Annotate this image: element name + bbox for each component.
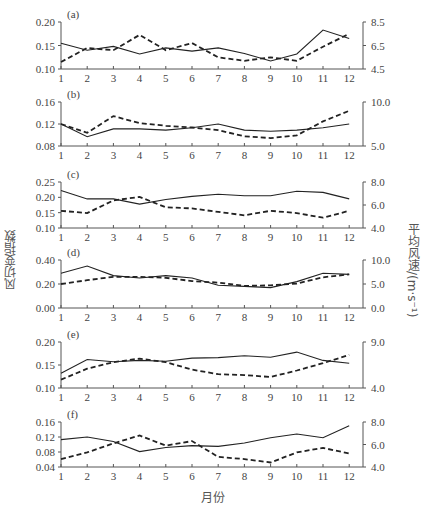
x-tick-label: 7 — [215, 391, 221, 403]
x-tick-label: 7 — [215, 72, 221, 84]
x-tick-label: 12 — [344, 391, 355, 403]
chart-figure: (a)0.100.150.204.56.58.5123456789101112(… — [0, 0, 425, 509]
right-tick-label: 4.0 — [371, 382, 385, 394]
x-tick-label: 12 — [344, 311, 355, 323]
left-tick-label: 0.12 — [36, 118, 55, 130]
y-axis-label-right: 平均风速/(m·s⁻¹) — [405, 190, 421, 350]
right-tick-label: 4.0 — [371, 461, 385, 473]
x-tick-label: 3 — [111, 391, 117, 403]
x-tick-label: 6 — [189, 470, 195, 482]
x-tick-label: 11 — [318, 72, 329, 84]
left-tick-label: 0.25 — [36, 176, 56, 188]
panel-c: (c)0.100.150.200.254.06.08.0123456789101… — [36, 168, 386, 243]
right-tick-label: 8.5 — [371, 16, 385, 28]
x-tick-label: 6 — [189, 391, 195, 403]
right-tick-label: 9.0 — [371, 336, 385, 348]
left-tick-label: 0.16 — [36, 96, 56, 108]
x-tick-label: 12 — [344, 231, 355, 243]
panel-label: (b) — [67, 88, 80, 101]
x-tick-label: 3 — [111, 149, 117, 161]
x-tick-label: 11 — [318, 231, 329, 243]
right-tick-label: 5.0 — [371, 278, 385, 290]
x-tick-label: 6 — [189, 72, 195, 84]
right-tick-label: 10.0 — [371, 96, 391, 108]
x-tick-label: 1 — [58, 72, 64, 84]
x-tick-label: 12 — [344, 470, 355, 482]
panel-label: (d) — [67, 246, 80, 259]
x-tick-label: 10 — [291, 231, 303, 243]
x-tick-label: 1 — [58, 391, 64, 403]
x-tick-label: 4 — [137, 231, 143, 243]
x-tick-label: 10 — [291, 470, 303, 482]
x-tick-label: 8 — [242, 72, 248, 84]
left-tick-label: 0.15 — [36, 40, 56, 52]
x-tick-label: 6 — [189, 311, 195, 323]
right-tick-label: 0.0 — [371, 302, 385, 314]
y-axis-label-left: 风切变指数 — [2, 200, 18, 320]
wind-shear-line — [61, 191, 349, 205]
x-tick-label: 7 — [215, 311, 221, 323]
x-tick-label: 11 — [318, 470, 329, 482]
x-tick-label: 9 — [268, 391, 274, 403]
left-tick-label: 0.16 — [36, 416, 56, 428]
x-tick-label: 2 — [84, 311, 90, 323]
right-tick-label: 8.0 — [371, 176, 385, 188]
x-tick-label: 8 — [242, 391, 248, 403]
x-tick-label: 3 — [111, 470, 117, 482]
panel-d: (d)0.000.200.400.05.010.0123456789101112 — [36, 246, 391, 323]
left-tick-label: 0.10 — [36, 222, 56, 234]
x-tick-label: 5 — [163, 311, 169, 323]
x-tick-label: 2 — [84, 470, 90, 482]
left-tick-label: 0.04 — [36, 461, 56, 473]
panel-label: (e) — [67, 328, 80, 341]
x-tick-label: 3 — [111, 311, 117, 323]
x-tick-label: 1 — [58, 311, 64, 323]
x-tick-label: 8 — [242, 149, 248, 161]
x-tick-label: 8 — [242, 470, 248, 482]
x-tick-label: 6 — [189, 231, 195, 243]
left-tick-label: 0.00 — [36, 302, 56, 314]
left-tick-label: 0.15 — [36, 207, 56, 219]
wind-shear-line — [61, 352, 349, 373]
panel-e: (e)0.100.150.204.09.0123456789101112 — [36, 328, 386, 403]
x-tick-label: 12 — [344, 72, 355, 84]
left-tick-label: 0.20 — [36, 336, 56, 348]
x-tick-label: 9 — [268, 470, 274, 482]
left-tick-label: 0.15 — [36, 359, 56, 371]
x-tick-label: 8 — [242, 311, 248, 323]
wind-shear-line — [61, 266, 349, 288]
right-tick-label: 6.0 — [371, 199, 385, 211]
wind-speed-line — [61, 355, 349, 380]
panel-label: (c) — [67, 168, 80, 181]
x-tick-label: 9 — [268, 72, 274, 84]
x-tick-label: 2 — [84, 231, 90, 243]
x-tick-label: 7 — [215, 470, 221, 482]
left-tick-label: 0.08 — [36, 446, 56, 458]
wind-speed-line — [61, 111, 349, 138]
x-tick-label: 4 — [137, 311, 143, 323]
left-tick-label: 0.20 — [36, 278, 56, 290]
x-tick-label: 5 — [163, 231, 169, 243]
x-tick-label: 11 — [318, 391, 329, 403]
right-tick-label: 10.0 — [371, 254, 391, 266]
x-tick-label: 1 — [58, 470, 64, 482]
x-tick-label: 1 — [58, 149, 64, 161]
panel-a: (a)0.100.150.204.56.58.5123456789101112 — [36, 8, 386, 84]
x-tick-label: 12 — [344, 149, 355, 161]
x-tick-label: 6 — [189, 149, 195, 161]
x-axis-label: 月份 — [0, 488, 425, 505]
right-tick-label: 4.5 — [371, 63, 385, 75]
x-tick-label: 5 — [163, 391, 169, 403]
x-tick-label: 5 — [163, 72, 169, 84]
x-tick-label: 1 — [58, 231, 64, 243]
x-tick-label: 9 — [268, 231, 274, 243]
x-tick-label: 8 — [242, 231, 248, 243]
wind-speed-line — [61, 274, 349, 286]
x-tick-label: 9 — [268, 149, 274, 161]
left-tick-label: 0.12 — [36, 431, 55, 443]
right-tick-label: 4.0 — [371, 222, 385, 234]
wind-shear-line — [61, 124, 349, 137]
wind-shear-line — [61, 30, 349, 61]
right-tick-label: 6.5 — [371, 40, 385, 52]
x-tick-label: 10 — [291, 149, 303, 161]
